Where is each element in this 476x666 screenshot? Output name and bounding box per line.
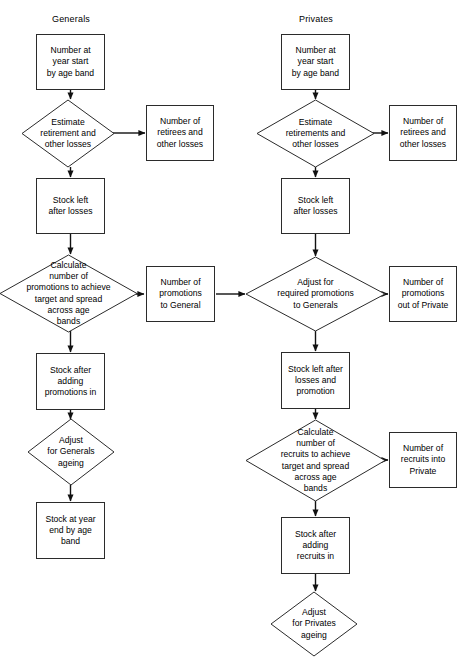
node-privates-recruits-into-private: Number of recruits into Private: [389, 432, 457, 488]
flowchart-diagram: Generals Privates Number at year start b…: [0, 0, 476, 666]
node-privates-estimate-retirements: Estimate retirements and other losses: [257, 100, 374, 167]
node-label: Calculate number of recruits to achieve …: [246, 420, 385, 501]
node-label: Adjust for Generals ageing: [28, 419, 114, 485]
node-generals-stock-at-year-end: Stock at year end by age band: [36, 502, 105, 559]
node-privates-adjust-ageing: Adjust for Privates ageing: [271, 592, 357, 656]
node-generals-stock-after-promotions: Stock after adding promotions in: [36, 353, 105, 410]
column-title-privates: Privates: [281, 14, 351, 24]
node-generals-promotions-to-general: Number of promotions to General: [146, 266, 215, 322]
node-generals-number-at-year-start: Number at year start by age band: [36, 34, 105, 90]
node-generals-stock-left-after-losses: Stock left after losses: [36, 178, 105, 234]
node-generals-adjust-ageing: Adjust for Generals ageing: [28, 419, 114, 485]
node-generals-estimate-retirement: Estimate retirement and other losses: [22, 100, 114, 167]
node-generals-retirees-losses: Number of retirees and other losses: [146, 105, 214, 161]
column-title-generals: Generals: [36, 14, 106, 24]
node-privates-stock-left-after-losses-promotion: Stock left after losses and promotion: [281, 352, 350, 409]
node-label: Adjust for required promotions to Genera…: [246, 257, 385, 331]
node-privates-adjust-required-promotions: Adjust for required promotions to Genera…: [246, 257, 385, 331]
node-privates-calculate-recruits: Calculate number of recruits to achieve …: [246, 420, 385, 501]
node-label: Calculate number of promotions to achiev…: [0, 255, 137, 332]
node-label: Estimate retirements and other losses: [257, 100, 374, 167]
node-privates-stock-left-after-losses: Stock left after losses: [281, 178, 350, 234]
node-generals-calculate-promotions: Calculate number of promotions to achiev…: [0, 255, 137, 332]
node-privates-retirees-losses: Number of retirees and other losses: [389, 105, 457, 161]
node-label: Estimate retirement and other losses: [22, 100, 114, 167]
node-label: Adjust for Privates ageing: [271, 592, 357, 656]
node-privates-number-at-year-start: Number at year start by age band: [281, 34, 350, 90]
node-privates-promotions-out-of-private: Number of promotions out of Private: [389, 266, 457, 322]
node-privates-stock-after-recruits: Stock after adding recruits in: [281, 517, 350, 574]
